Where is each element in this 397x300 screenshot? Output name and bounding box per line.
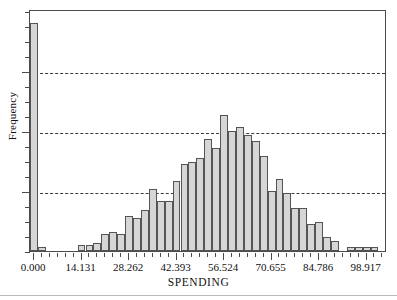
x-axis-minor-tick	[199, 253, 200, 257]
x-axis-minor-tick	[120, 253, 121, 257]
histogram-bar	[38, 247, 46, 251]
x-axis-tick-label: 70.655	[255, 261, 285, 273]
y-axis-minor-tick	[25, 222, 30, 223]
histogram-bar	[228, 131, 236, 251]
histogram-bar	[133, 218, 141, 251]
y-axis-minor-tick	[25, 12, 30, 13]
x-axis-minor-tick	[96, 253, 97, 257]
x-axis-minor-tick	[310, 253, 311, 257]
x-axis-minor-tick	[207, 253, 208, 257]
x-axis-tick-label: 56.524	[208, 261, 238, 273]
x-axis-minor-tick	[278, 253, 279, 257]
histogram-bar	[355, 247, 363, 251]
histogram-bar	[101, 234, 109, 251]
histogram-bar	[204, 139, 212, 251]
y-axis-minor-tick	[25, 237, 30, 238]
x-axis-tick-label: 98.917	[350, 261, 380, 273]
plot-area	[29, 10, 386, 252]
y-axis-title: Frequency	[6, 76, 18, 156]
histogram-bar	[363, 247, 371, 251]
histogram-bar	[268, 191, 276, 251]
x-axis-minor-tick	[239, 253, 240, 257]
y-axis-minor-tick	[25, 102, 30, 103]
histogram-bar	[125, 216, 133, 251]
y-axis-minor-tick	[25, 162, 30, 163]
x-axis-tick-labels: 0.00014.13128.26242.39356.52470.65584.78…	[0, 261, 397, 277]
histogram-bar	[283, 193, 291, 251]
x-axis-minor-tick	[302, 253, 303, 257]
x-axis-minor-tick	[350, 253, 351, 257]
x-axis-minor-tick	[231, 253, 232, 257]
x-axis-minor-tick	[334, 253, 335, 257]
x-axis-minor-tick	[263, 253, 264, 257]
histogram-bar	[165, 201, 173, 251]
x-axis-tick-label: 14.131	[65, 261, 95, 273]
histogram-bar	[181, 164, 189, 251]
x-axis-minor-tick	[88, 253, 89, 257]
y-axis-major-tick	[22, 72, 30, 73]
x-axis-major-tick	[33, 253, 34, 260]
histogram-bar	[212, 148, 220, 251]
x-axis-minor-tick	[144, 253, 145, 257]
histogram-bar	[244, 135, 252, 251]
histogram-bar	[260, 156, 268, 251]
histogram-bar	[315, 222, 323, 251]
histogram-bar	[291, 208, 299, 251]
x-axis-minor-tick	[183, 253, 184, 257]
x-axis-major-tick	[81, 253, 82, 260]
histogram-bar	[371, 247, 379, 251]
x-axis-minor-tick	[112, 253, 113, 257]
x-axis-minor-tick	[73, 253, 74, 257]
x-axis-minor-tick	[294, 253, 295, 257]
histogram-bar	[220, 115, 228, 251]
x-axis-title: SPENDING	[0, 276, 397, 288]
histogram-bar	[307, 224, 315, 251]
x-axis-minor-tick	[255, 253, 256, 257]
histogram-figure: 0.00014.13128.26242.39356.52470.65584.78…	[0, 0, 397, 300]
bottom-divider	[0, 295, 397, 296]
histogram-bar	[157, 201, 165, 251]
y-axis-minor-tick	[25, 42, 30, 43]
y-axis-major-tick	[22, 132, 30, 133]
x-axis-minor-tick	[286, 253, 287, 257]
histogram-bar	[109, 232, 117, 251]
x-axis-minor-tick	[373, 253, 374, 257]
y-axis-minor-tick	[25, 207, 30, 208]
histogram-bar	[93, 243, 101, 251]
x-axis-minor-tick	[104, 253, 105, 257]
x-axis-major-tick	[223, 253, 224, 260]
x-axis-tick-label: 0.000	[21, 261, 46, 273]
histogram-bar	[347, 247, 355, 251]
histogram-bar	[117, 234, 125, 251]
x-axis-minor-tick	[326, 253, 327, 257]
histogram-bar	[149, 189, 157, 251]
histogram-bar	[188, 162, 196, 251]
y-axis-minor-tick	[25, 117, 30, 118]
histogram-bar	[173, 181, 181, 251]
x-axis-minor-tick	[152, 253, 153, 257]
histogram-bar	[86, 245, 94, 251]
x-axis-minor-tick	[65, 253, 66, 257]
histogram-bar	[252, 141, 260, 251]
histogram-bar	[141, 210, 149, 251]
x-axis-minor-tick	[358, 253, 359, 257]
x-axis-major-tick	[318, 253, 319, 260]
x-axis-tick-label: 84.786	[303, 261, 333, 273]
y-axis-minor-tick	[25, 177, 30, 178]
x-axis-ticks	[29, 253, 386, 261]
x-axis-major-tick	[176, 253, 177, 260]
histogram-bars	[30, 11, 385, 251]
histogram-bar	[331, 241, 339, 251]
x-axis-minor-tick	[381, 253, 382, 257]
x-axis-minor-tick	[247, 253, 248, 257]
x-axis-major-tick	[128, 253, 129, 260]
x-axis-minor-tick	[342, 253, 343, 257]
x-axis-minor-tick	[168, 253, 169, 257]
y-axis-minor-tick	[25, 27, 30, 28]
histogram-bar	[236, 127, 244, 251]
x-axis-minor-tick	[160, 253, 161, 257]
histogram-bar	[30, 23, 38, 251]
histogram-bar	[276, 179, 284, 251]
x-axis-tick-label: 42.393	[160, 261, 190, 273]
histogram-bar	[78, 245, 86, 251]
